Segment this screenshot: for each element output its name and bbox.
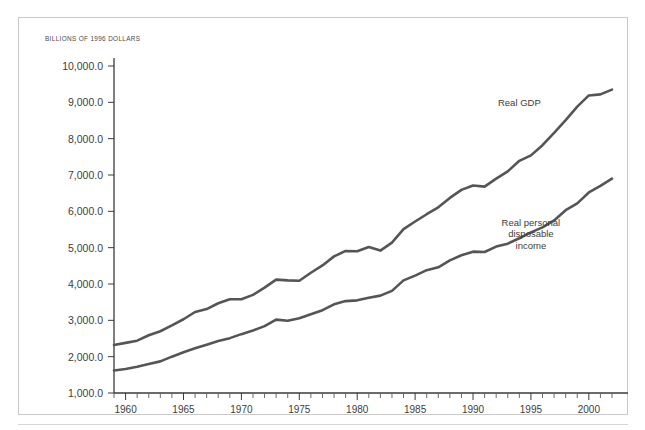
- y-tick-label: 5,000.0: [68, 242, 103, 254]
- x-tick-label: 1980: [346, 404, 369, 415]
- x-tick-label: 1995: [520, 404, 543, 415]
- series-annotation: Real personaldisposableincome: [502, 217, 561, 251]
- y-tick-label: 10,000.0: [62, 60, 103, 72]
- y-tick-label: 1,000.0: [68, 387, 103, 399]
- series-annotation-line: Real personal: [502, 217, 561, 228]
- y-tick-label: 3,000.0: [68, 314, 103, 326]
- x-tick-label: 1960: [114, 404, 137, 415]
- x-tick-label: 1990: [462, 404, 485, 415]
- y-tick-label: 6,000.0: [68, 205, 103, 217]
- y-tick-label: 8,000.0: [68, 133, 103, 145]
- x-tick-label: 1965: [172, 404, 195, 415]
- y-tick-label: 9,000.0: [68, 96, 103, 108]
- y-tick-label: 4,000.0: [68, 278, 103, 290]
- y-tick-label: 7,000.0: [68, 169, 103, 181]
- series-annotation-line: disposable: [508, 228, 553, 239]
- x-tick-label: 1970: [230, 404, 253, 415]
- x-tick-label: 1985: [404, 404, 427, 415]
- data-series-line: [114, 179, 612, 371]
- line-chart: 1,000.02,000.03,000.04,000.05,000.06,000…: [0, 0, 645, 430]
- x-tick-label: 2000: [578, 404, 601, 415]
- x-tick-label: 1975: [288, 404, 311, 415]
- series-annotation-line: income: [516, 240, 547, 251]
- y-tick-label: 2,000.0: [68, 351, 103, 363]
- figure-page: BILLIONS OF 1996 DOLLARS 1,000.02,000.03…: [0, 0, 645, 430]
- series-annotation: Real GDP: [498, 97, 541, 108]
- series-annotation-line: Real GDP: [498, 97, 541, 108]
